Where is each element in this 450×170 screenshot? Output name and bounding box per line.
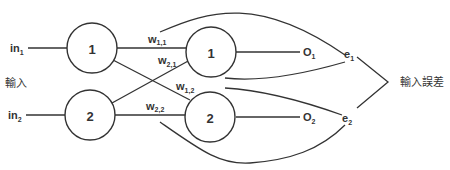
input-label-1: in1 <box>10 42 24 56</box>
curve-e2-top <box>225 88 342 115</box>
input-label-2: in2 <box>8 109 22 123</box>
neural-network-diagram: 1 2 1 2 in1 in2 輸入 w1,1 w2,1 w1,2 w2,2 O… <box>0 0 450 170</box>
hidden-node-1-label: 1 <box>88 42 95 57</box>
error-group-label: 輸入誤差 <box>400 75 444 89</box>
weight-label-w11: w1,1 <box>147 33 166 47</box>
output-label-1: O1 <box>303 46 316 60</box>
hidden-node-2-label: 2 <box>86 109 93 124</box>
weight-label-w12: w1,2 <box>175 80 194 95</box>
output-label-2: O2 <box>303 111 316 125</box>
output-node-2: 2 <box>185 92 235 142</box>
hidden-node-2: 2 <box>65 90 115 140</box>
weight-label-w22: w2,2 <box>145 100 164 114</box>
error-label-1: e1 <box>344 48 354 62</box>
output-node-2-label: 2 <box>206 111 213 126</box>
output-node-1-label: 1 <box>207 46 214 61</box>
curve-e1-bottom <box>225 62 345 79</box>
weight-label-w21: w2,1 <box>157 54 176 69</box>
input-group-label: 輸入 <box>5 76 27 90</box>
hidden-node-1: 1 <box>67 23 117 73</box>
error-label-2: e2 <box>342 112 352 126</box>
output-node-1: 1 <box>186 27 236 77</box>
error-bracket <box>357 57 388 108</box>
